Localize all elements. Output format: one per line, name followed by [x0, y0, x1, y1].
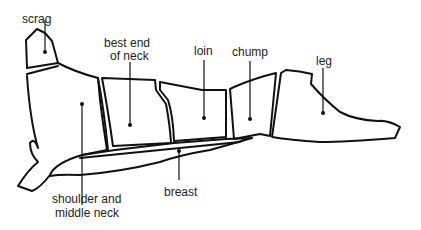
label-leg: leg	[316, 54, 332, 68]
region-chump	[230, 61, 276, 139]
label-scrag: scrag	[22, 12, 51, 26]
region-scrag	[26, 20, 58, 68]
label-shoulder-line1: shoulder and	[52, 192, 121, 206]
region-best-end-of-neck	[98, 62, 171, 150]
lamb-cuts-diagram: scrag best end of neck loin chump leg sh…	[0, 0, 421, 230]
label-chump: chump	[232, 45, 268, 59]
label-shoulder-line2: middle neck	[55, 206, 119, 220]
label-best-end-line2: of neck	[110, 49, 149, 63]
label-best-end-line1: best end	[104, 36, 150, 50]
label-loin: loin	[194, 44, 213, 58]
region-leg	[272, 68, 400, 142]
region-shoulder-middle-neck	[18, 63, 107, 205]
label-breast: breast	[164, 185, 197, 199]
